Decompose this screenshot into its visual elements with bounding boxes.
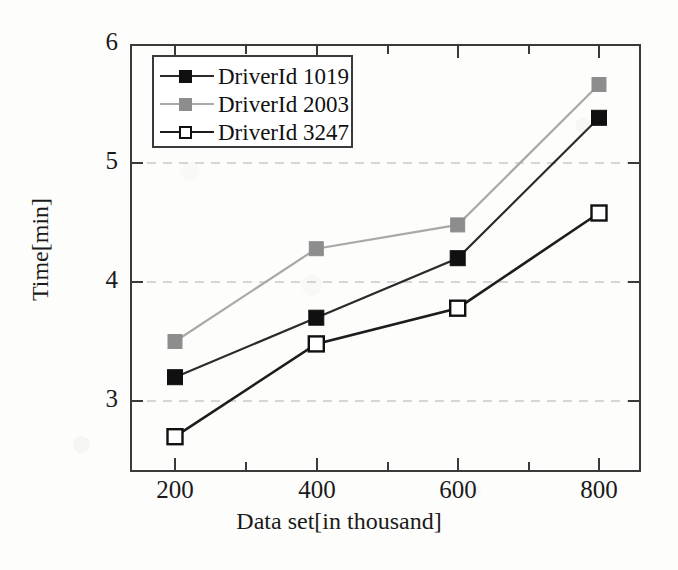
x-tick-label-600: 600 [423,476,493,504]
legend-label-1019: DriverId 1019 [218,65,349,88]
chart-figure: 6 5 4 3 200 400 600 800 Data set[in thou… [0,0,678,570]
x-tick-label-800: 800 [564,476,634,504]
legend-swatch-2003 [160,95,214,113]
legend-swatch-3247 [160,123,214,141]
y-tick-label-4: 4 [78,266,118,294]
filled-gray-square-icon [179,98,192,111]
legend-label-2003: DriverId 2003 [218,93,349,116]
open-square-icon [179,126,192,139]
y-tick-label-6: 6 [78,28,118,56]
legend-swatch-1019 [160,67,214,85]
filled-square-icon [179,70,192,83]
legend-label-3247: DriverId 3247 [218,121,349,144]
x-tick-label-200: 200 [140,476,210,504]
legend-item-3247: DriverId 3247 [154,118,351,146]
y-tick-label-3: 3 [78,385,118,413]
y-axis-title: Time[min] [27,150,54,350]
x-axis-title: Data set[in thousand] [0,508,678,535]
x-tick-label-400: 400 [282,476,352,504]
legend-item-1019: DriverId 1019 [154,62,351,90]
legend-item-2003: DriverId 2003 [154,90,351,118]
chart-legend: DriverId 1019 DriverId 2003 DriverId 324… [152,55,353,148]
y-tick-label-5: 5 [78,147,118,175]
